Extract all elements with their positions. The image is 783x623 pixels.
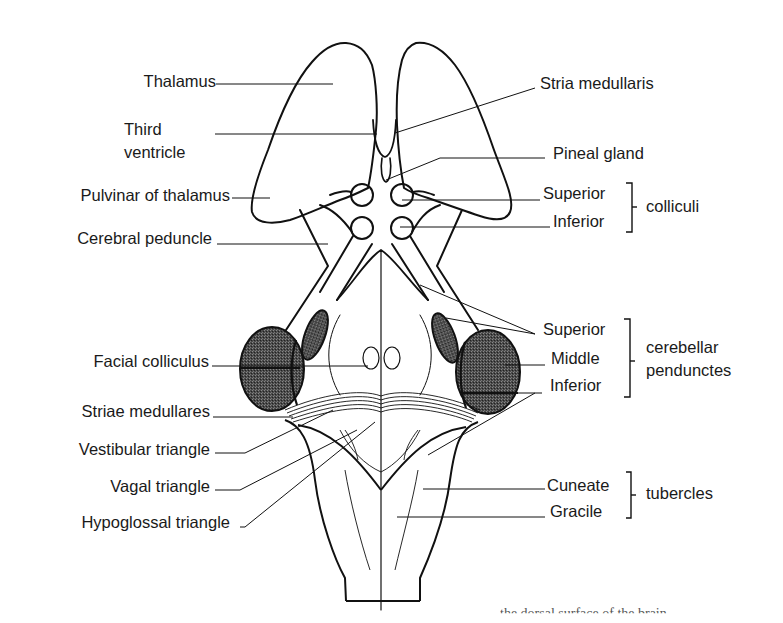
label-stria-medullaris: Stria medullaris — [540, 74, 654, 93]
right-facial-colliculus — [384, 347, 400, 369]
label-pineal-gland: Pineal gland — [553, 144, 644, 163]
label-ventricle: ventricle — [124, 143, 185, 162]
label-middle-cerebellar: Middle — [551, 349, 600, 368]
label-inferior-cerebellar: Inferior — [550, 376, 601, 395]
leader-hypoglossal — [240, 422, 375, 527]
label-vestibular-triangle: Vestibular triangle — [79, 440, 210, 459]
label-vagal-triangle: Vagal triangle — [110, 477, 210, 496]
bracket-cerebellar — [624, 319, 630, 397]
right-thalamus — [397, 43, 512, 220]
label-cerebellar: cerebellar — [646, 338, 718, 357]
medulla-left — [285, 420, 346, 601]
leader-pineal — [386, 158, 545, 180]
label-cerebral-peduncle: Cerebral peduncle — [77, 229, 212, 248]
bracket-tubercles — [626, 472, 631, 518]
leader-vestibular — [215, 410, 333, 453]
label-third: Third — [124, 120, 162, 139]
label-pendunctes: pendunctes — [646, 361, 731, 380]
label-tubercles: tubercles — [646, 484, 713, 503]
label-superior-colliculus: Superior — [543, 184, 605, 203]
right-cerebral-peduncle — [437, 210, 478, 330]
label-striae-medullares: Striae medullares — [82, 402, 210, 421]
bracket-colliculi — [626, 183, 632, 232]
label-hypoglossal-triangle: Hypoglossal triangle — [81, 513, 230, 532]
medulla-right — [420, 422, 478, 601]
left-thalamus — [252, 43, 377, 223]
leader-stria-medullaris — [395, 88, 535, 133]
right-superior-colliculus — [391, 184, 413, 206]
label-cuneate: Cuneate — [547, 476, 609, 495]
label-superior-cerebellar: Superior — [543, 320, 605, 339]
label-colliculi: colliculi — [646, 197, 699, 216]
label-inferior-colliculus: Inferior — [553, 212, 604, 231]
label-thalamus: Thalamus — [144, 72, 216, 91]
leader-vagal — [215, 430, 357, 490]
left-superior-peduncle-mass — [297, 307, 334, 363]
label-pulvinar: Pulvinar of thalamus — [81, 186, 231, 205]
right-superior-peduncle-mass — [427, 310, 464, 366]
fourth-ventricle-apex — [337, 250, 428, 300]
label-gracile: Gracile — [550, 502, 602, 521]
brainstem-diagram: Thalamus Third ventricle Pulvinar of tha… — [0, 0, 783, 623]
label-facial-colliculus: Facial colliculus — [93, 352, 209, 371]
right-superior-peduncle-inner — [392, 244, 428, 300]
left-inferior-colliculus — [351, 217, 373, 239]
